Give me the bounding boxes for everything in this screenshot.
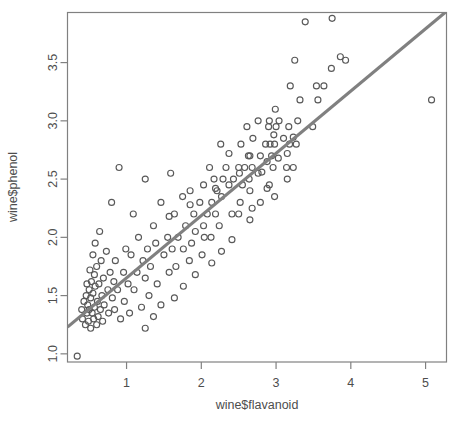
- y-axis-title: wine$phenol: [6, 152, 20, 223]
- y-tick-label: 3.5: [47, 54, 61, 71]
- plot-background: [0, 0, 460, 428]
- y-tick-label: 2.5: [47, 170, 61, 187]
- x-axis-title: wine$flavanoid: [215, 398, 299, 412]
- y-tick-label: 2.0: [47, 229, 61, 246]
- x-tick-label: 4: [347, 376, 354, 390]
- y-tick-label: 1.5: [47, 287, 61, 304]
- scatter-plot-figure: 12345 1.01.52.02.53.03.5 wine$flavanoid …: [0, 0, 460, 428]
- y-tick-label: 1.0: [47, 345, 61, 362]
- y-tick-label: 3.0: [47, 112, 61, 129]
- x-tick-label: 1: [123, 376, 130, 390]
- x-tick-label: 2: [198, 376, 205, 390]
- chart-canvas: 12345 1.01.52.02.53.03.5 wine$flavanoid …: [0, 0, 460, 428]
- x-tick-label: 5: [422, 376, 429, 390]
- x-tick-label: 3: [273, 376, 280, 390]
